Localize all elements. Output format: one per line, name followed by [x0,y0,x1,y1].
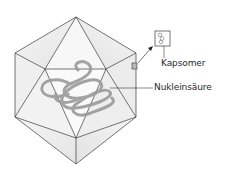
capsomer-label: Kapsomer [161,58,205,68]
capsomer-inset [155,31,170,46]
capsid-faces [15,17,136,164]
capsomer-marker [132,63,137,69]
nucleic-acid-label: Nukleinsäure [154,82,212,92]
